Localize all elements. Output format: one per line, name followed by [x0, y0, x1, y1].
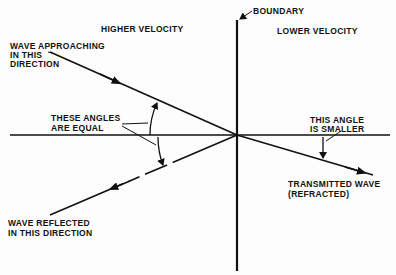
incident-angle-arc	[150, 103, 157, 135]
reflected-label-line2: IN THIS DIRECTION	[8, 229, 92, 238]
reflected-arrow-icon	[113, 181, 130, 188]
equal-angles-label-line2: ARE EQUAL	[51, 124, 104, 133]
reflected-angle-arc	[158, 137, 163, 165]
region-label-lower-velocity: LOWER VELOCITY	[277, 27, 358, 36]
boundary-label: BOUNDARY	[253, 7, 304, 16]
incident-arrow-icon	[100, 74, 117, 82]
equal-pointer-upper	[122, 123, 148, 124]
diagram-canvas: HIGHER VELOCITY LOWER VELOCITY BOUNDARY …	[0, 0, 396, 275]
boundary-pointer	[240, 11, 252, 19]
incident-label-line3: DIRECTION	[10, 60, 59, 69]
reflected-label-line1: WAVE REFLECTED	[8, 219, 90, 228]
transmitted-label-line1: TRANSMITTED WAVE	[288, 180, 380, 189]
smaller-angle-label-line2: IS SMALLER	[310, 125, 364, 134]
equal-angles-label-line1: THESE ANGLES	[51, 114, 120, 123]
region-label-higher-velocity: HIGHER VELOCITY	[101, 25, 183, 34]
transmitted-label-line2: (REFRACTED)	[288, 190, 349, 199]
reflected-ray	[50, 135, 237, 215]
refracted-arrow-icon	[345, 167, 362, 172]
